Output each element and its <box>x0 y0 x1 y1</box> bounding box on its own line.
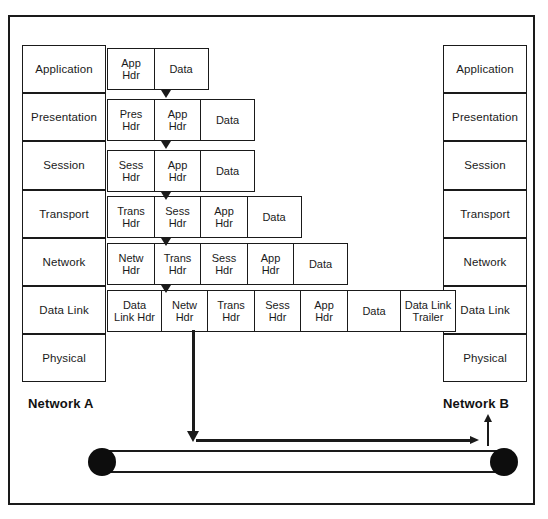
encapsulation-arrow-2 <box>161 142 172 149</box>
arrow-head <box>161 285 171 293</box>
pdu-cell-line2: Link Hdr <box>114 311 155 323</box>
pdu-cell-data[interactable]: Data <box>200 99 255 141</box>
pdu-cell-line1: App <box>314 299 334 311</box>
pdu-cell-app-hdr[interactable]: AppHdr <box>247 243 295 285</box>
pdu-row-data-link: DataLink HdrNetwHdrTransHdrSessHdrAppHdr… <box>107 290 456 332</box>
pdu-cell-trans-hdr[interactable]: TransHdr <box>207 290 255 332</box>
encapsulation-arrow-1 <box>161 91 172 98</box>
pdu-cell-sess-hdr[interactable]: SessHdr <box>154 196 202 238</box>
pdu-cell-line2: Hdr <box>122 217 140 229</box>
pdu-cell-line1: Netw <box>118 252 143 264</box>
pdu-cell-line2: Hdr <box>122 69 140 81</box>
network-cable <box>100 450 500 473</box>
pdu-cell-line1: Data <box>309 258 332 270</box>
pdu-cell-trans-hdr[interactable]: TransHdr <box>154 243 202 285</box>
layer-label: Physical <box>42 352 86 364</box>
network-a-label: Network A <box>28 396 94 411</box>
pdu-cell-line1: Netw <box>172 299 197 311</box>
pdu-cell-data[interactable]: Data <box>154 48 209 90</box>
pdu-cell-line1: App <box>168 108 188 120</box>
pdu-cell-line1: Data <box>123 299 146 311</box>
pdu-cell-line2: Hdr <box>269 311 287 323</box>
pdu-cell-line1: App <box>168 159 188 171</box>
pdu-cell-data[interactable]: Data <box>200 150 255 192</box>
pdu-cell-line1: Data Link <box>405 299 451 311</box>
pdu-cell-line1: Sess <box>265 299 289 311</box>
pdu-cell-line2: Hdr <box>122 264 140 276</box>
pdu-cell-line2: Hdr <box>176 311 194 323</box>
layer-box-network[interactable]: Network <box>443 238 527 286</box>
pdu-row-application: AppHdrData <box>107 48 209 90</box>
pdu-cell-line2: Hdr <box>222 311 240 323</box>
pdu-cell-trans-hdr[interactable]: TransHdr <box>107 196 155 238</box>
layer-label: Data Link <box>460 304 509 316</box>
pdu-cell-app-hdr[interactable]: AppHdr <box>154 150 202 192</box>
layer-box-physical[interactable]: Physical <box>443 334 527 382</box>
pdu-cell-sess-hdr[interactable]: SessHdr <box>254 290 302 332</box>
layer-box-presentation[interactable]: Presentation <box>443 93 527 141</box>
pdu-cell-line1: App <box>261 252 281 264</box>
layer-box-session[interactable]: Session <box>443 141 527 189</box>
diagram-canvas: ApplicationPresentationSessionTransportN… <box>0 0 548 519</box>
layer-box-data-link[interactable]: Data Link <box>22 286 106 334</box>
pdu-cell-app-hdr[interactable]: AppHdr <box>107 48 155 90</box>
encapsulation-arrow-5 <box>161 286 172 293</box>
pdu-cell-line2: Hdr <box>169 171 187 183</box>
pdu-cell-app-hdr[interactable]: AppHdr <box>300 290 348 332</box>
pdu-cell-line1: Trans <box>217 299 245 311</box>
arrow-head <box>470 436 479 444</box>
layer-label: Session <box>43 159 85 171</box>
arrow-head <box>161 90 171 98</box>
pdu-cell-data[interactable]: Data <box>247 196 302 238</box>
pdu-cell-pres-hdr[interactable]: PresHdr <box>107 99 155 141</box>
arrow-head <box>161 192 171 200</box>
pdu-cell-line1: Sess <box>212 252 236 264</box>
pdu-cell-app-hdr[interactable]: AppHdr <box>154 99 202 141</box>
pdu-cell-line2: Hdr <box>169 217 187 229</box>
pdu-cell-data-link-hdr[interactable]: DataLink Hdr <box>107 290 162 332</box>
pdu-row-network: NetwHdrTransHdrSessHdrAppHdrData <box>107 243 348 285</box>
pdu-row-transport: TransHdrSessHdrAppHdrData <box>107 196 302 238</box>
pdu-cell-line1: Trans <box>117 205 145 217</box>
pdu-cell-line2: Hdr <box>122 120 140 132</box>
pdu-cell-sess-hdr[interactable]: SessHdr <box>107 150 155 192</box>
pdu-cell-line1: Data <box>262 211 285 223</box>
pdu-cell-line2: Hdr <box>215 217 233 229</box>
network-b-label: Network B <box>443 396 509 411</box>
layer-box-transport[interactable]: Transport <box>443 190 527 238</box>
pdu-cell-line1: Data <box>216 114 239 126</box>
pdu-cell-line2: Hdr <box>262 264 280 276</box>
layer-label: Application <box>456 63 513 75</box>
pdu-cell-line1: Trans <box>164 252 192 264</box>
layer-box-application[interactable]: Application <box>22 45 106 93</box>
layer-box-session[interactable]: Session <box>22 141 106 189</box>
layer-label: Network <box>464 256 507 268</box>
layer-box-presentation[interactable]: Presentation <box>22 93 106 141</box>
pdu-cell-data[interactable]: Data <box>293 243 348 285</box>
pdu-cell-sess-hdr[interactable]: SessHdr <box>200 243 248 285</box>
pdu-cell-app-hdr[interactable]: AppHdr <box>200 196 248 238</box>
layer-box-network[interactable]: Network <box>22 238 106 286</box>
pdu-cell-netw-hdr[interactable]: NetwHdr <box>107 243 155 285</box>
layer-box-physical[interactable]: Physical <box>22 334 106 382</box>
layer-label: Transport <box>39 208 89 220</box>
pdu-cell-data-link-trailer[interactable]: Data LinkTrailer <box>400 290 456 332</box>
layer-box-application[interactable]: Application <box>443 45 527 93</box>
transmission-arrow <box>196 436 479 445</box>
pdu-cell-line1: App <box>121 57 141 69</box>
pdu-cell-line1: Data <box>216 165 239 177</box>
arrow-shaft <box>487 420 489 446</box>
arrow-head <box>161 238 171 246</box>
layer-label: Data Link <box>39 304 88 316</box>
layer-box-transport[interactable]: Transport <box>22 190 106 238</box>
pdu-cell-line2: Hdr <box>122 171 140 183</box>
pdu-cell-line1: Sess <box>119 159 143 171</box>
pdu-cell-line2: Hdr <box>215 264 233 276</box>
encapsulation-arrow-4 <box>161 239 172 246</box>
transmit-down-arrow <box>187 330 200 442</box>
pdu-cell-line1: Sess <box>165 205 189 217</box>
encapsulation-arrow-3 <box>161 193 172 200</box>
pdu-cell-netw-hdr[interactable]: NetwHdr <box>161 290 209 332</box>
pdu-cell-line2: Hdr <box>169 264 187 276</box>
pdu-cell-data[interactable]: Data <box>347 290 402 332</box>
